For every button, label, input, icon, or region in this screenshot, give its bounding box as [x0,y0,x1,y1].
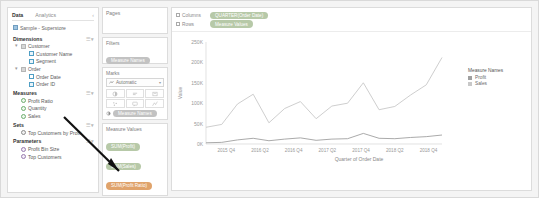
worksheet-view: Columns QUARTER(Order Date) Rows Measure… [171,7,532,191]
rows-shelf-row[interactable]: Rows Measure Values [176,20,527,27]
legend-item[interactable]: Profit [468,75,528,80]
section-tools[interactable]: ☰ ▾ [86,122,94,128]
measure-value-pill[interactable]: SUM(Sales) [106,154,164,172]
tab-analytics[interactable]: Analytics [35,12,56,18]
field-order[interactable]: ▾Order [12,65,94,73]
data-pane-tabs: Data Analytics ‹ [12,12,94,21]
svg-text:Value: Value [177,87,183,100]
path-button[interactable] [145,99,164,108]
field-profit-ratio[interactable]: Profit Ratio [12,97,94,105]
color-button[interactable] [106,89,125,98]
legend-label: Profit [475,75,486,80]
datasource-row[interactable]: Sample - Superstore [12,23,94,34]
num-icon [21,98,26,103]
pages-shelf[interactable] [106,18,164,31]
columns-label-wrap: Columns [176,13,206,18]
color-icon [106,111,111,116]
mark-type-dropdown[interactable]: Automatic ▾ [106,78,164,87]
set-icon [21,130,26,135]
svg-text:100K: 100K [191,101,203,107]
marks-buttons [106,89,164,108]
field-top-customers-by-profit[interactable]: Top Customers by Profit [12,129,94,137]
mark-type-label: Automatic [116,80,136,85]
svg-text:2016 Q4: 2016 Q4 [285,148,303,153]
line-mark-icon [109,80,114,85]
marks-label: Marks [106,70,164,76]
chevron-down-icon[interactable]: ▾ [159,80,161,85]
field-label: Segment [36,58,56,64]
rows-pill-measure-values[interactable]: Measure Values [210,20,253,27]
section-tools[interactable]: ☰ ▾ [86,138,94,144]
section-title: Sets [13,122,24,128]
field-label: Top Customers by Profit [28,130,81,136]
measure-value-pill[interactable]: SUM(Profit) [106,134,164,152]
tooltip-icon [132,101,138,107]
cards-column: Pages Filters Measure Names Marks Automa… [102,7,168,193]
marks-pill-row[interactable]: Measure Names [106,110,164,117]
field-order-id[interactable]: Order ID [12,80,94,88]
field-label: Customer Name [36,51,72,57]
field-sales[interactable]: Sales [12,112,94,120]
size-button[interactable] [126,89,145,98]
filters-card: Filters Measure Names [102,37,168,64]
svg-text:150K: 150K [191,80,203,86]
prm-icon [21,154,26,159]
measure-values-label: Measure Values [106,126,164,132]
measure-value-pill[interactable]: SUM(Profit Ratio) [106,173,164,191]
columns-icon [176,13,180,17]
rows-label-wrap: Rows [176,22,206,27]
section-header-dimensions: Dimensions☰ ▾ [12,34,94,43]
svg-text:2018 Q4: 2018 Q4 [420,148,438,153]
field-label: Quantity [28,105,47,111]
section-tools[interactable]: ☰ ▾ [86,36,94,42]
field-segment[interactable]: Segment [12,58,94,66]
mark-type-row[interactable]: Automatic ▾ [106,78,164,87]
marks-pill-measure-names[interactable]: Measure Names [113,110,157,117]
expander-icon[interactable]: ▾ [15,44,19,49]
field-label: Order ID [36,81,55,87]
abc-icon [29,51,34,56]
section-header-parameters: Parameters☰ ▾ [12,136,94,145]
legend-item[interactable]: Sales [468,81,528,86]
section-title: Measures [13,90,37,96]
data-pane: Data Analytics ‹ Sample - Superstore Dim… [7,7,99,193]
cal-icon [29,74,34,79]
num-icon [21,114,26,119]
field-customer[interactable]: ▾Customer [12,43,94,51]
color-legend: Measure Names ProfitSales [468,68,528,87]
field-top-customers[interactable]: Top Customers [12,153,94,161]
detail-icon [112,101,118,107]
field-customer-name[interactable]: Customer Name [12,50,94,58]
legend-swatch [468,76,472,80]
label-button[interactable] [145,89,164,98]
legend-swatch [468,82,472,86]
folder-icon [21,67,26,72]
field-quantity[interactable]: Quantity [12,105,94,113]
detail-button[interactable] [106,99,125,108]
svg-text:0K: 0K [197,141,204,147]
field-order-date[interactable]: Order Date [12,73,94,81]
tableau-window: Data Analytics ‹ Sample - Superstore Dim… [0,0,539,198]
chart-area: 250K200K150K100K50K0KValue2015 Q42016 Q2… [172,32,531,172]
section-title: Dimensions [13,36,42,42]
tooltip-button[interactable] [126,99,145,108]
columns-pill-quarter-order-date[interactable]: QUARTER(Order Date) [210,12,268,19]
expander-icon[interactable]: ▾ [15,67,19,72]
section-header-sets: Sets☰ ▾ [12,120,94,129]
label-icon [152,91,158,97]
prm-icon [21,147,26,152]
field-profit-bin-size[interactable]: Profit Bin Size [12,145,94,153]
field-label: Order Date [36,74,61,80]
filter-pill-measure-names[interactable]: Measure Names [106,57,150,64]
field-label: Profit Ratio [28,98,53,104]
columns-shelf-row[interactable]: Columns QUARTER(Order Date) [176,12,527,19]
filters-shelf[interactable]: Measure Names [106,48,164,61]
shelves-header: Columns QUARTER(Order Date) Rows Measure… [172,8,531,32]
field-label: Top Customers [28,154,62,160]
collapse-pane-icon[interactable]: ‹ [92,12,94,18]
tab-data[interactable]: Data [12,12,23,18]
legend-title: Measure Names [468,68,528,73]
section-tools[interactable]: ☰ ▾ [86,90,94,96]
datasource-label: Sample - Superstore [20,25,66,31]
svg-text:250K: 250K [191,39,203,45]
